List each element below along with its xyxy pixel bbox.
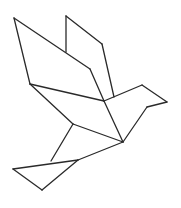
wing-fold-edge-line	[90, 69, 104, 101]
wing-base-line	[30, 84, 104, 101]
body-left-lower-line	[51, 124, 73, 161]
back-lower-line	[30, 84, 73, 124]
tangram-bird-figure: Tangram bird (dove) line drawing	[0, 0, 181, 208]
right-wing-top-edge-line	[66, 16, 102, 44]
throat-line	[123, 107, 147, 142]
neck-top-line	[104, 85, 142, 101]
tail-left-bottom-line	[13, 169, 42, 190]
outline-strokes	[13, 16, 167, 190]
tangram-bird-drawing	[0, 0, 181, 208]
head-top-line	[142, 85, 167, 102]
belly-bottom-line	[78, 142, 123, 160]
right-wing-right-edge-line	[102, 44, 114, 97]
beak-bottom-line	[147, 102, 167, 107]
